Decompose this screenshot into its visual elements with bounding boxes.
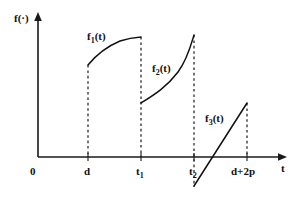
tick-label-d-main: d xyxy=(84,165,90,177)
tick-label-d: d xyxy=(84,166,90,180)
y-axis xyxy=(34,12,42,157)
tick-label-t2-sub: 2 xyxy=(193,171,197,180)
tick-label-t1-sub: 1 xyxy=(140,171,144,180)
curve-label-f3-suffix: (t) xyxy=(213,112,224,124)
curve-label-f3: f3(t) xyxy=(205,113,224,127)
droplines xyxy=(88,35,247,187)
curve-label-f2-suffix: (t) xyxy=(160,62,171,74)
tick-label-d2p: d+2p xyxy=(231,166,255,180)
origin-label: 0 xyxy=(30,166,36,177)
x-axis-label: t xyxy=(281,163,285,174)
tick-label-t2: t2 xyxy=(189,166,197,180)
y-axis-label: f(·) xyxy=(14,13,29,24)
plot-svg xyxy=(0,0,304,198)
curve-label-f1-suffix: (t) xyxy=(95,30,106,42)
tick-label-d2p-main: d+2p xyxy=(231,165,255,177)
curve-label-f1: f1(t) xyxy=(87,31,106,45)
tick-label-t1: t1 xyxy=(136,166,144,180)
figure-canvas: f(·) t 0 d t1 t2 d+2p f1(t) f2(t) f3(t) xyxy=(0,0,304,198)
curve-label-f2: f2(t) xyxy=(152,63,171,77)
x-axis xyxy=(38,153,287,161)
